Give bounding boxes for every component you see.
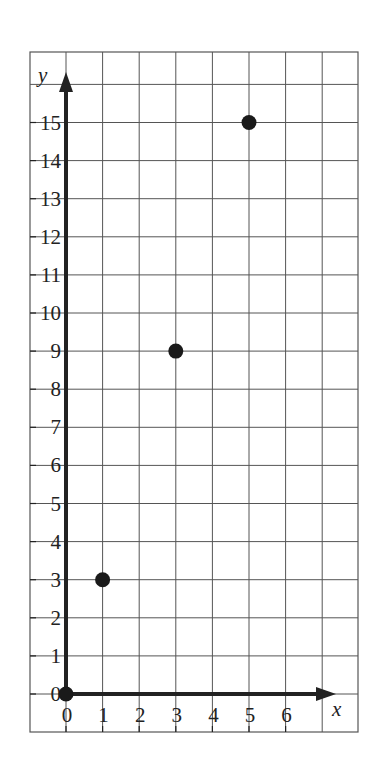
grid-lines (30, 52, 358, 732)
data-point (168, 344, 183, 359)
data-point (242, 115, 257, 130)
y-tick-label: 6 (51, 453, 62, 477)
y-tick-label: 7 (51, 415, 62, 439)
y-axis-arrow-icon (59, 72, 73, 92)
y-tick-label: 5 (51, 492, 62, 516)
y-tick-label: 2 (51, 606, 62, 630)
x-axis-label: x (331, 697, 342, 721)
chart-frame (30, 52, 358, 732)
scatter-chart: 0123456789101112131415 0123456 x y (0, 0, 370, 772)
x-tick-label: 2 (135, 703, 146, 727)
axes (59, 72, 336, 701)
x-tick-label: 4 (208, 703, 219, 727)
data-points (59, 115, 257, 702)
data-point (59, 687, 74, 702)
y-tick-label: 3 (51, 568, 62, 592)
x-tick-labels: 0123456 (62, 703, 292, 732)
y-tick-label: 4 (51, 530, 62, 554)
x-tick-label: 6 (281, 703, 292, 727)
y-axis-label: y (36, 63, 48, 87)
y-tick-label: 12 (40, 225, 61, 249)
y-tick-labels: 0123456789101112131415 (30, 111, 62, 707)
x-tick-label: 1 (98, 703, 109, 727)
y-tick-label: 8 (51, 377, 62, 401)
x-tick-label: 5 (245, 703, 256, 727)
y-tick-label: 10 (40, 301, 61, 325)
y-tick-label: 11 (41, 263, 61, 287)
x-tick-label: 0 (62, 703, 73, 727)
y-tick-label: 13 (40, 187, 61, 211)
y-tick-label: 9 (51, 339, 62, 363)
x-tick-label: 3 (172, 703, 183, 727)
y-tick-label: 1 (51, 644, 62, 668)
y-tick-label: 14 (40, 149, 62, 173)
y-tick-label: 15 (40, 111, 61, 135)
data-point (95, 572, 110, 587)
